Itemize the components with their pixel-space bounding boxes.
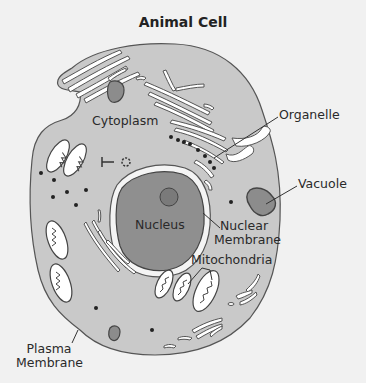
cell-illustration (0, 0, 366, 383)
label-cytoplasm: Cytoplasm (92, 114, 158, 128)
label-vacuole: Vacuole (298, 177, 347, 191)
animal-cell-diagram: Animal Cell (0, 0, 366, 383)
label-nucleus: Nucleus (135, 218, 185, 232)
label-mitochondria: Mitochondria (191, 253, 272, 267)
label-plasma-membrane: Plasma Membrane (16, 342, 82, 370)
small-vacuole-top (108, 81, 124, 103)
small-vacuole-bottom (109, 326, 120, 341)
label-nuclear-membrane: Nuclear Membrane (214, 219, 274, 247)
nucleolus (160, 188, 178, 206)
label-organelle: Organelle (279, 108, 340, 122)
